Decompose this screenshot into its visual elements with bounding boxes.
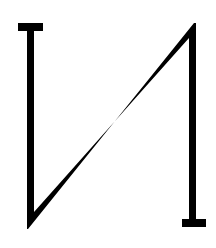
top-left-serif [18, 23, 43, 31]
n-glyph-icon [0, 0, 216, 248]
glyph-body [27, 23, 196, 229]
bottom-right-serif [182, 219, 206, 227]
